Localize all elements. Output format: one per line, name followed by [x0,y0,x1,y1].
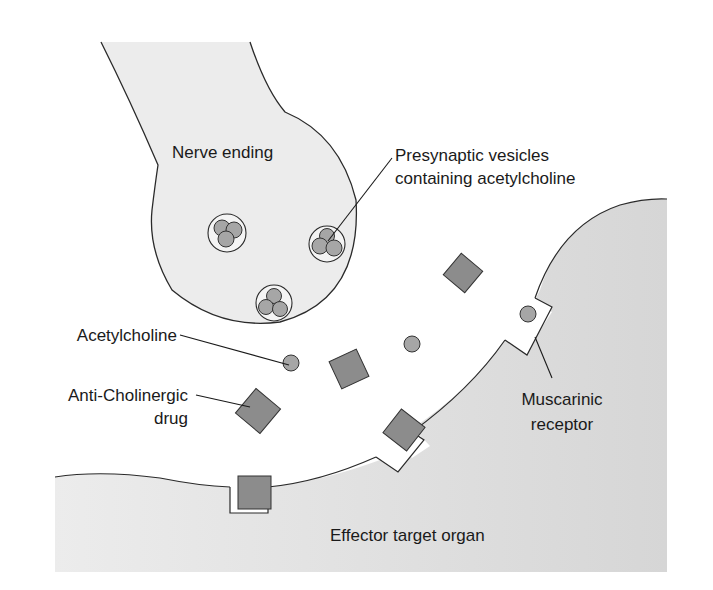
label-effector-target-organ: Effector target organ [330,526,485,545]
vesicle-bottom [256,285,292,321]
acetylcholine-bound-receptor [520,306,536,322]
synapse-diagram: Nerve ending Presynaptic vesicles contai… [0,0,713,590]
anticholinergic-drug-molecule [443,253,482,292]
acetylcholine-molecule [404,336,420,352]
label-vesicles-line2: containing acetylcholine [395,169,576,188]
nerve-ending [101,42,356,323]
anticholinergic-drug-bound-receptor [238,476,271,509]
vesicle-left [208,214,246,252]
vesicle-right [309,226,345,262]
label-vesicles-line1: Presynaptic vesicles [395,146,549,165]
label-anticholinergic-line2: drug [154,409,188,428]
anticholinergic-drug-molecule [329,349,369,389]
anticholinergic-drug-molecule [235,388,280,433]
acetylcholine-molecule [283,355,299,371]
label-muscarinic-line1: Muscarinic [521,390,603,409]
leader-anticholinergic [196,395,250,407]
leader-acetylcholine [180,335,289,365]
label-muscarinic-line2: receptor [531,415,594,434]
label-nerve-ending: Nerve ending [172,143,273,162]
label-anticholinergic-line1: Anti-Cholinergic [68,386,188,405]
label-acetylcholine: Acetylcholine [77,326,177,345]
